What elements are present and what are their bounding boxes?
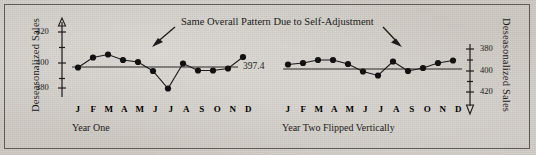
month-label: J [148,104,164,114]
x-axis-months-year-two: JFMAMJJASOND [280,104,466,114]
left-tick-420: 420 [36,26,49,36]
month-label: D [241,104,257,114]
month-label: A [327,104,343,114]
month-label: J [373,104,389,114]
month-label: D [451,104,467,114]
series-line-year-one [78,55,243,89]
month-label: S [404,104,420,114]
right-axis-title: Deseasonalized Sales [501,18,512,112]
month-label: O [210,104,226,114]
left-tick-380: 380 [36,82,49,92]
series-points-year-one [75,51,246,91]
right-tick-380: 380 [480,43,493,53]
left-tick-400: 400 [36,57,49,67]
annotation-text: Same Overall Pattern Due to Self-Adjustm… [181,16,374,27]
figure-container: Deseasonalized Sales Deseasonalized Sale… [0,0,536,155]
month-label: M [342,104,358,114]
month-label: O [420,104,436,114]
month-label: N [225,104,241,114]
series-points-year-two [285,57,456,79]
month-label: J [163,104,179,114]
month-label: A [389,104,405,114]
annotation-arrow-left [152,27,175,47]
right-tick-420: 420 [480,86,493,96]
caption-year-two: Year Two Flipped Vertically [282,122,395,133]
month-label: J [70,104,86,114]
month-label: F [296,104,312,114]
month-label: S [194,104,210,114]
annotation-arrow-right [383,27,402,47]
series-line-year-two [288,60,453,76]
month-label: M [132,104,148,114]
month-label: N [435,104,451,114]
month-label: A [179,104,195,114]
month-label: M [311,104,327,114]
month-label: J [358,104,374,114]
month-label: A [117,104,133,114]
reference-line-label: 397.4 [243,61,264,71]
right-axis [466,44,474,114]
month-label: F [86,104,102,114]
month-label: M [101,104,117,114]
x-axis-months-year-one: JFMAMJJASOND [70,104,256,114]
caption-year-one: Year One [72,122,110,133]
right-tick-400: 400 [480,65,493,75]
left-axis [58,18,66,97]
month-label: J [280,104,296,114]
